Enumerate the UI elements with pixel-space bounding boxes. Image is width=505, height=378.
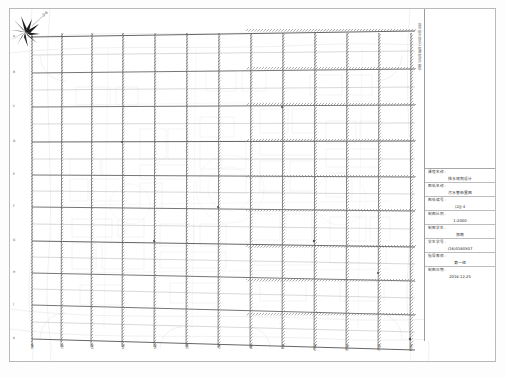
tick-label: W2: [60, 344, 64, 349]
field-value: 2018.12.25: [428, 273, 492, 280]
field-value: 污水管布置图: [428, 189, 492, 196]
tick-label: W8: [249, 344, 253, 349]
tick-label: B: [13, 70, 15, 74]
field-student-name: 制图学生: 郑南: [425, 225, 495, 239]
tick-label: E: [13, 172, 15, 176]
tick-label: W4: [121, 344, 125, 349]
tick-label: W7: [217, 344, 221, 349]
field-value: (16)0160307: [428, 245, 492, 252]
tick-label: G: [13, 238, 15, 242]
title-block-fields: 课程名称: 排水规划设计 图纸名称: 污水管布置图 图纸编号: (2)J-4 制…: [425, 169, 495, 280]
tick-label: F: [13, 204, 15, 208]
tick-label: C: [13, 104, 15, 108]
tick-label: W1: [30, 344, 34, 349]
tick-label: W6: [185, 344, 189, 349]
title-block-spine: 城市给水排水工程课程设计图纸: [414, 9, 424, 341]
tick-label: W13: [409, 344, 413, 351]
tick-label: D: [13, 139, 15, 143]
tick-label: W5: [153, 344, 157, 349]
north-arrow: N: [8, 10, 56, 52]
field-drawing-number: 图纸编号: (2)J-4: [425, 197, 495, 211]
title-block: 城市给水排水工程课程设计图纸 课程名称: 排水规划设计 图纸名称: 污水管布置图…: [424, 9, 495, 341]
tick-label: W9: [281, 344, 285, 349]
tick-label: W3: [90, 344, 94, 349]
field-value: 第一组: [428, 259, 492, 266]
field-date: 制图日期: 2018.12.25: [425, 267, 495, 280]
field-instructor: 指导教师: 第一组: [425, 253, 495, 267]
tick-label: W12: [377, 344, 381, 351]
tick-label: W11: [345, 344, 349, 351]
tick-label: J: [13, 302, 14, 306]
field-drawing-name: 图纸名称: 污水管布置图: [425, 183, 495, 197]
tick-label: H: [13, 270, 15, 274]
spine-text: 城市给水排水工程课程设计图纸: [414, 23, 424, 71]
field-value: 排水规划设计: [428, 175, 492, 182]
field-course-name: 课程名称: 排水规划设计: [425, 169, 495, 183]
field-scale: 制图比例: 1:2000: [425, 211, 495, 225]
title-block-header-blank: [425, 9, 495, 169]
north-label: N: [45, 11, 48, 15]
tick-label: K: [13, 336, 15, 340]
drawing-sheet: W1 W2 W3 W4 W5 W6 W7 W8 W9 W10 W11 W12 W…: [0, 0, 505, 378]
field-value: 郑南: [428, 231, 492, 238]
field-student-id: 学生学号: (16)0160307: [425, 239, 495, 253]
field-value: 1:2000: [428, 217, 492, 224]
tick-label: W10: [313, 344, 317, 351]
field-value: (2)J-4: [428, 203, 492, 210]
